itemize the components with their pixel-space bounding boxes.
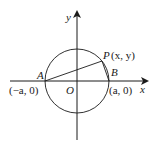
point-b-coords: (a, 0) — [109, 84, 133, 97]
origin-label: O — [66, 84, 74, 96]
segment-ap — [45, 61, 102, 81]
point-p-label: P — [102, 49, 110, 61]
point-a-label: A — [36, 69, 44, 81]
diagram-canvas: y x O A (−a, 0) B (a, 0) P (x, y) — [0, 0, 161, 151]
segment-pb — [102, 61, 109, 81]
y-axis-label: y — [65, 11, 71, 23]
x-axis-label: x — [139, 83, 145, 95]
point-b-label: B — [111, 66, 118, 78]
point-p-coords: (x, y) — [111, 49, 135, 62]
point-a-coords: (−a, 0) — [9, 84, 39, 97]
